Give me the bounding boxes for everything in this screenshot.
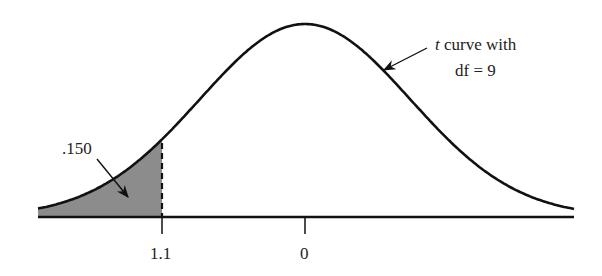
tick-label-0: 0	[300, 245, 309, 262]
curve-label-line1: t curve with	[435, 36, 516, 53]
tick-label-1.1: 1.1	[150, 245, 171, 262]
curve-label-line2: df = 9	[455, 62, 496, 79]
curve-arrow	[384, 48, 427, 70]
area-label: .150	[62, 140, 92, 157]
